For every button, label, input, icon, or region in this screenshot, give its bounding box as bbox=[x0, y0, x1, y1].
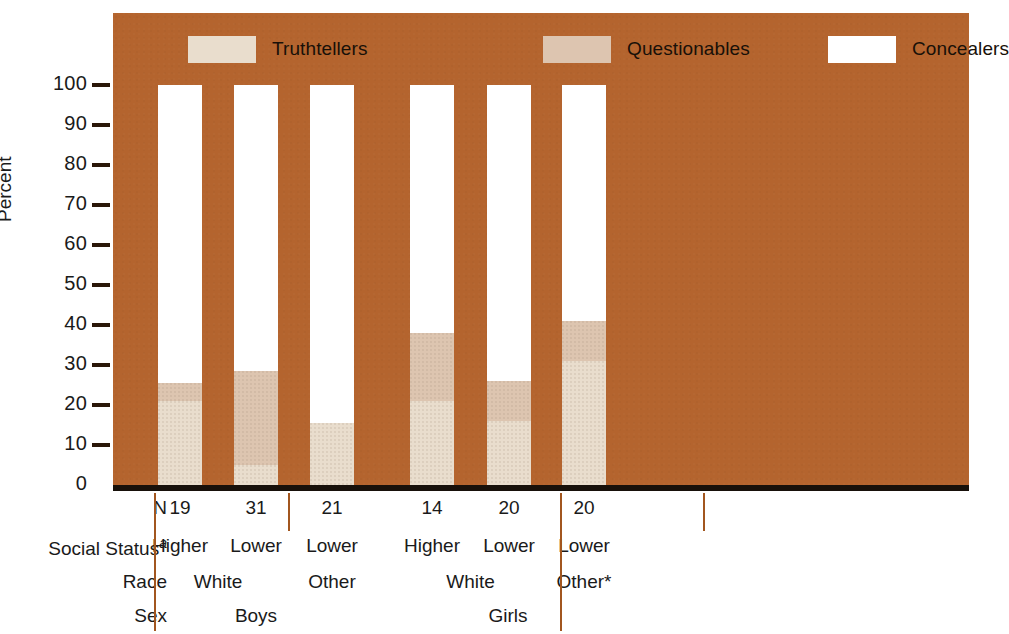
y-tick-label: 50 bbox=[64, 272, 87, 295]
legend-label-concealers: Concealers bbox=[912, 38, 1009, 60]
y-tick-label: 40 bbox=[64, 312, 87, 335]
label-cell-race: Other bbox=[262, 571, 402, 593]
y-tick-label: 30 bbox=[64, 352, 87, 375]
label-row-race: RaceWhiteOtherWhiteOther* bbox=[0, 571, 969, 607]
category-label-table: N193121142020Social StatusaHigherLowerLo… bbox=[0, 491, 969, 634]
legend-item-truthtellers: Truthtellers bbox=[188, 36, 368, 63]
row-title-race: Race bbox=[0, 571, 167, 593]
y-tick-mark bbox=[92, 123, 110, 127]
y-tick-mark bbox=[92, 83, 110, 87]
y-tick-label: 90 bbox=[64, 112, 87, 135]
bar-segment-questionables bbox=[158, 383, 202, 401]
bar-segment-truthtellers bbox=[234, 465, 278, 485]
bar-column bbox=[158, 85, 202, 485]
bar-column bbox=[234, 85, 278, 485]
label-row-n: N193121142020 bbox=[0, 497, 969, 533]
bar-segment-concealers bbox=[410, 85, 454, 333]
y-tick-mark bbox=[92, 163, 110, 167]
bar-segment-truthtellers bbox=[487, 421, 531, 485]
bar-segment-concealers bbox=[562, 85, 606, 321]
y-tick-label: 60 bbox=[64, 232, 87, 255]
bar-column bbox=[487, 85, 531, 485]
label-cell-sex: Boys bbox=[186, 605, 326, 627]
plot-panel: TruthtellersQuestionablesConcealers bbox=[113, 13, 969, 489]
bar-segment-concealers bbox=[310, 85, 354, 423]
label-cell-sex: Girls bbox=[438, 605, 578, 627]
bar-segment-questionables bbox=[234, 371, 278, 465]
label-cell-n: 20 bbox=[514, 497, 654, 519]
chart-legend: TruthtellersQuestionablesConcealers bbox=[113, 29, 969, 69]
label-cell-social-status: Lower bbox=[514, 535, 654, 557]
bar-segment-truthtellers bbox=[310, 423, 354, 485]
bar-segment-concealers bbox=[234, 85, 278, 371]
bar-segment-questionables bbox=[410, 333, 454, 401]
label-cell-race: Other* bbox=[514, 571, 654, 593]
separator-boys-status bbox=[288, 493, 290, 531]
y-tick-mark bbox=[92, 403, 110, 407]
bar-column bbox=[410, 85, 454, 485]
legend-item-concealers: Concealers bbox=[828, 36, 1009, 63]
bar-column bbox=[310, 85, 354, 485]
label-row-sex: SexBoysGirls bbox=[0, 605, 969, 634]
y-tick-label: 10 bbox=[64, 432, 87, 455]
bar-segment-truthtellers bbox=[158, 401, 202, 485]
legend-item-questionables: Questionables bbox=[543, 36, 750, 63]
y-tick-mark bbox=[92, 283, 110, 287]
y-tick-mark bbox=[92, 243, 110, 247]
separator-boys-girls bbox=[560, 493, 562, 631]
legend-label-questionables: Questionables bbox=[627, 38, 750, 60]
bar-column bbox=[562, 85, 606, 485]
y-tick-label: 20 bbox=[64, 392, 87, 415]
y-tick-label: 70 bbox=[64, 192, 87, 215]
legend-swatch-concealers bbox=[828, 36, 896, 63]
y-tick-label: 80 bbox=[64, 152, 87, 175]
bar-segment-questionables bbox=[487, 381, 531, 421]
y-tick-mark bbox=[92, 323, 110, 327]
y-tick-mark bbox=[92, 363, 110, 367]
legend-swatch-truthtellers bbox=[188, 36, 256, 63]
bar-segment-concealers bbox=[487, 85, 531, 381]
legend-label-truthtellers: Truthtellers bbox=[272, 38, 368, 60]
x-axis-baseline bbox=[113, 485, 969, 491]
bar-segment-questionables bbox=[562, 321, 606, 361]
separator-girls-status bbox=[703, 493, 705, 531]
bar-segment-truthtellers bbox=[562, 361, 606, 485]
y-tick-mark bbox=[92, 443, 110, 447]
y-tick-mark bbox=[92, 203, 110, 207]
y-tick-label: 100 bbox=[53, 72, 87, 95]
legend-swatch-questionables bbox=[543, 36, 611, 63]
y-axis-title: Percent bbox=[0, 157, 16, 222]
label-row-social-status: Social StatusaHigherLowerLowerHigherLowe… bbox=[0, 535, 969, 571]
separator-left-boundary bbox=[154, 493, 156, 631]
row-title-sex: Sex bbox=[0, 605, 167, 627]
bar-segment-truthtellers bbox=[410, 401, 454, 485]
bar-segment-concealers bbox=[158, 85, 202, 383]
